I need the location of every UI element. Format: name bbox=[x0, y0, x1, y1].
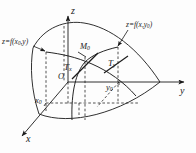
x-axis-label: x bbox=[26, 134, 30, 144]
tangent-line-tx bbox=[72, 53, 98, 79]
diagram-canvas bbox=[0, 0, 196, 153]
equation-right-label: z=f(x,y0) bbox=[126, 21, 152, 29]
y-axis-label: y bbox=[180, 86, 184, 96]
y0-label: y0 bbox=[106, 83, 113, 93]
y0-subscript: 0 bbox=[110, 86, 113, 92]
tangent-ty-subscript: y bbox=[113, 62, 116, 68]
x0-subscript: 0 bbox=[39, 99, 42, 105]
point-m0-subscript: 0 bbox=[87, 45, 90, 51]
equation-right-head: z=f(x,y bbox=[126, 20, 147, 29]
tangent-tx-label: Tx bbox=[64, 63, 72, 72]
origin-label: O bbox=[58, 72, 64, 81]
x-axis bbox=[22, 82, 68, 136]
leader-left-equation bbox=[33, 46, 45, 51]
xy-projection-lines bbox=[46, 82, 140, 118]
partial-derivative-diagram: z y x O M0 Tx Ty x0 y0 z=f(x0,y) z=f(x,y… bbox=[0, 0, 196, 153]
z-axis-label: z bbox=[71, 6, 75, 16]
equation-right-tail: ) bbox=[150, 20, 153, 29]
m0-marker bbox=[78, 52, 86, 57]
equation-left-label: z=f(x0,y) bbox=[2, 38, 28, 46]
x0-label: x0 bbox=[35, 96, 42, 106]
tangent-tx-subscript: x bbox=[69, 66, 72, 72]
equation-left-tail: ,y) bbox=[20, 37, 28, 46]
tangent-ty-label: Ty bbox=[108, 59, 116, 68]
surface-patch bbox=[31, 22, 160, 118]
equation-left-head: z=f(x bbox=[2, 37, 18, 46]
point-m0-label: M0 bbox=[80, 42, 90, 52]
